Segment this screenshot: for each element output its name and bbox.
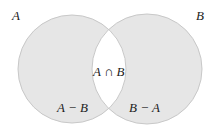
set-a-label: A	[12, 9, 20, 22]
intersection-label: A ∩ B	[93, 65, 125, 78]
a-minus-b-label: A − B	[57, 101, 88, 114]
b-minus-a-label: B − A	[129, 101, 160, 114]
set-b-label: B	[196, 9, 204, 22]
